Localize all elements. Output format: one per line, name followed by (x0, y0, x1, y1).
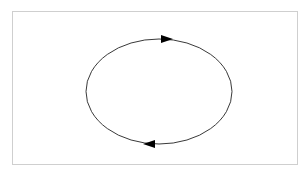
arrow-left-icon (143, 140, 155, 148)
cycle-diagram (0, 0, 308, 173)
cycle-ellipse (86, 39, 232, 144)
arrow-right-icon (161, 35, 173, 43)
